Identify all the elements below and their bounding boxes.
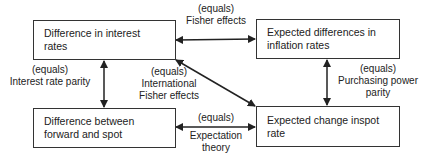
label-line: Interest rate parity (0, 76, 100, 88)
fisher-effects-arrow (176, 39, 255, 40)
node-label: Difference between forward and spot (44, 115, 165, 141)
label-interest-rate-parity: (equals) Interest rate parity (0, 64, 100, 88)
label-expectation-theory: (equals) Expectation theory (180, 112, 252, 154)
node-interest-rates: Difference in interest rates (33, 20, 176, 60)
node-forward-spot: Difference between forward and spot (33, 108, 176, 148)
label-line: Fisher effects (134, 90, 204, 102)
label-line: Purchasing power (333, 75, 423, 87)
label-line: Fisher effects (180, 15, 252, 27)
label-line: (equals) (134, 66, 204, 78)
label-line: (equals) (180, 3, 252, 15)
label-line: (equals) (333, 63, 423, 75)
label-fisher-effects: (equals) Fisher effects (180, 3, 252, 27)
label-line: International (134, 78, 204, 90)
label-line: (equals) (180, 112, 252, 124)
node-label: Expected differences in inflation rates (267, 26, 389, 52)
node-inflation-rates: Expected differences in inflation rates (256, 19, 400, 59)
label-line: Expectation (180, 130, 252, 142)
label-international-fisher-effects: (equals) International Fisher effects (134, 66, 204, 102)
label-line: (equals) (0, 64, 100, 76)
label-line: theory (180, 142, 252, 154)
label-purchasing-power-parity: (equals) Purchasing power parity (333, 63, 423, 99)
node-label: Difference in interest rates (44, 27, 165, 53)
node-label: Expected change inspot rate (267, 114, 389, 140)
node-spot-change: Expected change inspot rate (256, 106, 400, 147)
label-line: parity (333, 87, 423, 99)
